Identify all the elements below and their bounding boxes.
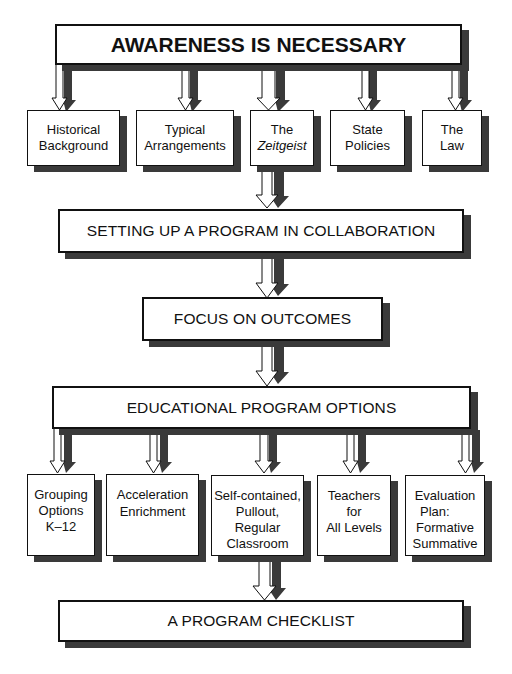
awareness-item-state-policies: State Policies: [330, 110, 405, 166]
item-line: Evaluation: [415, 488, 476, 504]
item-line: Acceleration: [117, 487, 189, 503]
item-line: All Levels: [326, 520, 382, 536]
item-line: Formative: [416, 520, 474, 536]
item-line: Classroom: [226, 536, 288, 552]
item-line: Grouping: [34, 487, 87, 503]
setup-program-box: SETTING UP A PROGRAM IN COLLABORATION: [58, 209, 464, 253]
option-teachers: Teachers for All Levels: [317, 475, 391, 556]
awareness-item-typical-arrangements: Typical Arrangements: [136, 110, 234, 166]
item-line: Summative: [412, 536, 477, 552]
item-line: Typical: [165, 122, 205, 138]
focus-outcomes-label: FOCUS ON OUTCOMES: [174, 310, 351, 328]
item-line-italic: Zeitgeist: [257, 138, 306, 154]
item-line: Policies: [345, 138, 390, 154]
item-line: Historical: [47, 122, 100, 138]
item-line: for: [346, 504, 361, 520]
program-options-label: EDUCATIONAL PROGRAM OPTIONS: [127, 399, 397, 417]
item-line: Options: [39, 503, 84, 519]
item-line: Regular: [235, 520, 281, 536]
item-line: Plan:: [406, 504, 450, 520]
item-line: Law: [440, 138, 464, 154]
item-line: Arrangements: [144, 138, 226, 154]
program-checklist-box: A PROGRAM CHECKLIST: [58, 600, 464, 642]
option-acceleration-enrichment: Acceleration Enrichment: [106, 474, 199, 556]
item-line: Background: [39, 138, 108, 154]
awareness-header-box: AWARENESS IS NECESSARY: [55, 24, 462, 65]
awareness-item-the-law: The Law: [422, 110, 482, 166]
item-line: Enrichment: [120, 504, 186, 520]
option-evaluation-plan: Evaluation Plan: Formative Summative: [405, 475, 485, 556]
item-line: K–12: [46, 519, 76, 535]
item-line: The: [441, 122, 463, 138]
focus-outcomes-box: FOCUS ON OUTCOMES: [142, 297, 383, 341]
item-line: The: [271, 122, 293, 138]
setup-program-label: SETTING UP A PROGRAM IN COLLABORATION: [87, 222, 436, 240]
awareness-item-historical-background: Historical Background: [27, 110, 120, 166]
item-line: Teachers: [328, 488, 381, 504]
program-options-box: EDUCATIONAL PROGRAM OPTIONS: [52, 386, 471, 429]
item-line: Self-contained,: [214, 488, 301, 504]
item-line: Pullout,: [236, 504, 279, 520]
program-checklist-label: A PROGRAM CHECKLIST: [167, 612, 354, 630]
awareness-item-zeitgeist: The Zeitgeist: [250, 110, 314, 166]
awareness-header-label: AWARENESS IS NECESSARY: [111, 33, 407, 57]
option-classroom-settings: Self-contained, Pullout, Regular Classro…: [211, 475, 304, 556]
option-grouping: Grouping Options K–12: [27, 474, 95, 556]
item-line: State: [352, 122, 382, 138]
